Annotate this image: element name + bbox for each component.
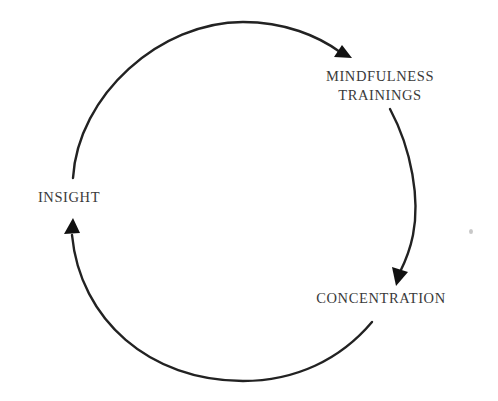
arrowhead-icon	[392, 267, 408, 286]
node-label-line: INSIGHT	[30, 188, 108, 207]
node-mindfulness-trainings: MINDFULNESS TRAININGS	[300, 67, 460, 105]
node-label-line: TRAININGS	[300, 86, 460, 105]
node-insight: INSIGHT	[30, 188, 108, 207]
scan-artifact	[469, 229, 473, 234]
arrowhead-icon	[334, 45, 352, 58]
arrowhead-icon	[64, 218, 80, 234]
node-label-line: MINDFULNESS	[300, 67, 460, 86]
arrow-mindfulness-to-concentration	[390, 109, 415, 286]
node-label-line: CONCENTRATION	[296, 289, 466, 308]
node-concentration: CONCENTRATION	[296, 289, 466, 308]
